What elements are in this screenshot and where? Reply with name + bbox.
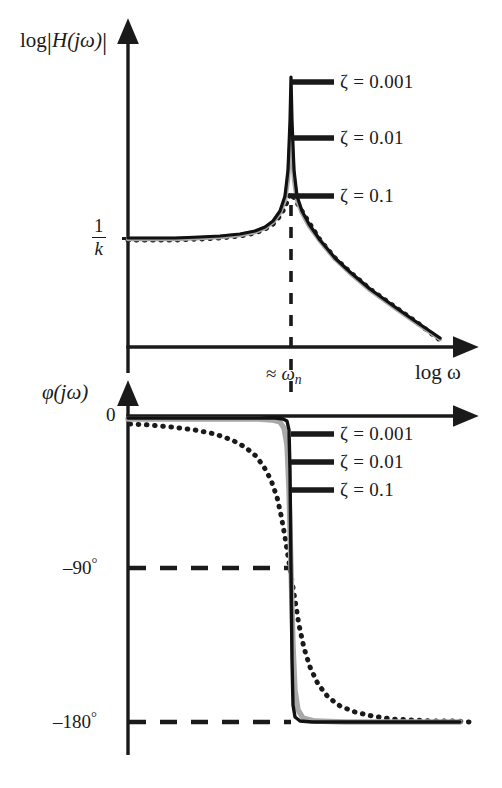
magnitude-x-axis-title: log ω (415, 362, 461, 383)
figure-caption-clipped (0, 781, 502, 788)
fraction-numerator: 1 (92, 216, 106, 238)
resonance-tick-label: ≈ωn (266, 364, 302, 387)
phase-curve-zeta-0p1 (130, 424, 470, 722)
phase-ytick-label-zero: 0 (106, 405, 116, 424)
magnitude-legend-zeta-0p1: ζ = 0.1 (340, 186, 394, 205)
phase-y-axis-title-text: φ(jω) (42, 380, 88, 404)
degree-sign-minus90: ° (92, 555, 98, 571)
magnitude-curve-zeta-0p1 (128, 193, 440, 340)
phase-legend-zeta-0p1-text: ζ = 0.1 (340, 479, 394, 500)
phase-ytick-minus90-value: –90 (63, 557, 92, 578)
magnitude-y-axis-title: log|H(jω)| (20, 30, 107, 53)
phase-ytick-zero-text: 0 (106, 404, 116, 425)
phase-legend-zeta-0p01: ζ = 0.01 (340, 452, 404, 471)
magnitude-legend-zeta-0p01-text: ζ = 0.01 (340, 127, 404, 148)
phase-legend-zeta-0p001: ζ = 0.001 (340, 424, 414, 443)
magnitude-legend-zeta-0p01: ζ = 0.01 (340, 128, 404, 147)
magnitude-legend-zeta-0p001: ζ = 0.001 (340, 72, 414, 91)
phase-ytick-label-minus90: –90° (63, 556, 97, 577)
omega-subscript-n: n (295, 372, 302, 387)
magnitude-ytick-label-1overk: 1 k (92, 216, 106, 259)
approx-symbol: ≈ (266, 363, 276, 384)
magnitude-legend-zeta-0p1-text: ζ = 0.1 (340, 185, 394, 206)
degree-sign-minus180: ° (91, 709, 97, 725)
one-over-k-fraction: 1 k (92, 216, 106, 259)
phase-legend-zeta-0p1: ζ = 0.1 (340, 480, 394, 499)
bode-plot-figure: log|H(jω)| 1 k ζ = 0.001 ζ = 0.01 ζ = 0.… (0, 0, 502, 788)
fraction-denominator: k (92, 238, 106, 259)
phase-y-axis-title: φ(jω) (42, 382, 88, 403)
magnitude-y-axis-title-log: log (20, 28, 47, 52)
abs-bar-right-glyph: | (102, 30, 107, 53)
magnitude-legend-zeta-0p001-text: ζ = 0.001 (340, 71, 414, 92)
phase-legend-zeta-0p001-text: ζ = 0.001 (340, 423, 414, 444)
magnitude-y-axis-title-expr: H(jω) (52, 28, 102, 52)
phase-legend-zeta-0p01-text: ζ = 0.01 (340, 451, 404, 472)
omega-symbol: ω (281, 363, 294, 384)
magnitude-x-axis-title-text: log ω (415, 360, 461, 384)
phase-ytick-label-minus180: –180° (53, 710, 97, 731)
phase-ytick-minus180-value: –180 (53, 711, 91, 732)
